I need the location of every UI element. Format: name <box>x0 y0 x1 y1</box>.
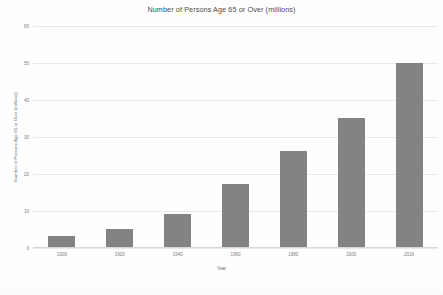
x-axis-title: Year <box>0 266 443 271</box>
bar-chart: Number of Persons Age 65 or Over (millio… <box>0 0 443 295</box>
bar-series <box>33 26 438 247</box>
bar-2016 <box>396 63 423 247</box>
x-axis-tick-label: 2016 <box>380 252 438 257</box>
y-axis-tick-label: 0 <box>26 246 29 251</box>
bar-slot <box>33 26 91 247</box>
bar-1920 <box>106 229 133 247</box>
y-axis-tick-label: 20 <box>24 172 29 177</box>
x-axis-tick-label: 1940 <box>149 252 207 257</box>
bar-1940 <box>164 214 191 247</box>
y-axis-title: Number of Persons Age 65 or Over (millio… <box>13 92 18 182</box>
bar-slot <box>264 26 322 247</box>
bar-1900 <box>48 236 75 247</box>
bar-slot <box>91 26 149 247</box>
bar-slot <box>380 26 438 247</box>
scan-artifact <box>0 281 443 295</box>
bar-1980 <box>280 151 307 247</box>
x-axis-tick-label: 2000 <box>322 252 380 257</box>
bar-slot <box>149 26 207 247</box>
x-axis-ticks: 1900192019401960198020002016 <box>33 252 438 257</box>
x-axis-tick-label: 1980 <box>264 252 322 257</box>
x-axis-tick-label: 1960 <box>207 252 265 257</box>
y-axis-tick-label: 10 <box>24 209 29 214</box>
x-axis-line <box>33 247 438 248</box>
bar-2000 <box>338 118 365 247</box>
plot-area: 0102030405060 <box>33 26 438 248</box>
y-axis-tick-label: 40 <box>24 98 29 103</box>
x-axis-tick-label: 1920 <box>91 252 149 257</box>
gridline <box>33 248 438 249</box>
bar-1960 <box>222 184 249 247</box>
bar-slot <box>207 26 265 247</box>
y-axis-tick-label: 50 <box>24 61 29 66</box>
y-axis-tick-label: 30 <box>24 135 29 140</box>
y-axis-tick-label: 60 <box>24 24 29 29</box>
bar-slot <box>322 26 380 247</box>
chart-title: Number of Persons Age 65 or Over (millio… <box>0 5 443 14</box>
x-axis-tick-label: 1900 <box>33 252 91 257</box>
